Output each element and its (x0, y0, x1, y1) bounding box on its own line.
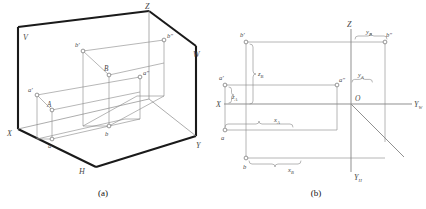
caption-panel-b: (b) (311, 188, 322, 198)
marker-a-top (50, 137, 54, 141)
marker-a-top-flat (223, 128, 227, 132)
marker-b-top-flat (244, 156, 248, 160)
marker-b-front-flat (244, 40, 248, 44)
point-label-a-side-flat: a" (339, 76, 345, 83)
marker-a-side-flat (335, 83, 339, 87)
axis-label-Z-pictorial: Z (145, 2, 150, 11)
axis-label-origin: O (355, 94, 361, 103)
marker-a-front-flat (223, 83, 227, 87)
marker-b-front (81, 49, 85, 53)
marker-B (107, 73, 111, 77)
canvas-background (0, 0, 426, 209)
point-label-a-front-flat: a' (219, 74, 224, 81)
point-label-B: B (104, 65, 109, 73)
axis-label-Z-flat: Z (347, 20, 352, 29)
point-label-a-side: a" (143, 69, 149, 76)
marker-a-front (35, 93, 39, 97)
point-label-A: A (46, 101, 52, 109)
marker-a-side (138, 75, 142, 79)
technical-drawing-canvas: V H W X Y Z B A a' b' a" b" a b (a) (0, 0, 426, 209)
figure-root: V H W X Y Z B A a' b' a" b" a b (a) (0, 0, 426, 209)
point-label-b-front: b' (75, 41, 80, 48)
point-label-b-front-flat: b' (240, 31, 245, 38)
marker-b-top (107, 124, 111, 128)
point-label-a-front: a' (28, 86, 33, 93)
caption-panel-a: (a) (98, 188, 108, 198)
marker-b-side-flat (383, 40, 387, 44)
marker-b-side (162, 38, 166, 42)
point-label-b-side: b" (167, 32, 173, 39)
point-label-b-side-flat: b" (386, 31, 392, 38)
